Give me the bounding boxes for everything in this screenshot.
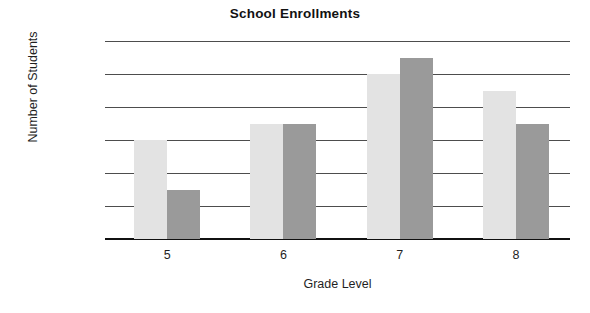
gridline — [105, 41, 570, 42]
y-axis-title: Number of Students — [26, 0, 40, 177]
x-tick-label: 7 — [370, 248, 430, 262]
bar-series-a-grade-6 — [250, 124, 283, 240]
bar-series-b-grade-8 — [516, 124, 549, 240]
chart-title: School Enrollments — [0, 6, 590, 21]
bar-series-b-grade-6 — [283, 124, 316, 240]
bar-series-a-grade-5 — [134, 140, 167, 239]
x-axis-title: Grade Level — [105, 277, 570, 291]
x-tick-label: 8 — [486, 248, 546, 262]
gridline — [105, 74, 570, 75]
bar-chart: School Enrollments Number of Students 02… — [0, 0, 590, 313]
bar-series-a-grade-7 — [367, 74, 400, 239]
bar-series-b-grade-5 — [167, 190, 200, 240]
x-tick-label: 5 — [137, 248, 197, 262]
bar-series-b-grade-7 — [400, 58, 433, 240]
bar-series-a-grade-8 — [483, 91, 516, 240]
x-tick-label: 6 — [253, 248, 313, 262]
plot-area: 0204060801001205678 — [105, 41, 570, 239]
